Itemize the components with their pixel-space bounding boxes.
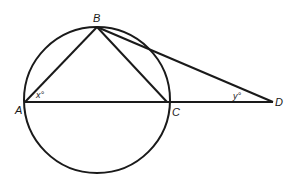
geometry-diagram: B A C D x° y°	[0, 0, 297, 181]
point-label-C: C	[172, 106, 180, 118]
angle-label-y: y°	[232, 91, 242, 101]
point-label-D: D	[275, 96, 283, 108]
segment-BD	[97, 27, 273, 102]
point-label-B: B	[93, 12, 100, 24]
segment-BC	[97, 27, 167, 102]
angle-label-x: x°	[35, 90, 45, 100]
point-label-A: A	[14, 104, 22, 116]
